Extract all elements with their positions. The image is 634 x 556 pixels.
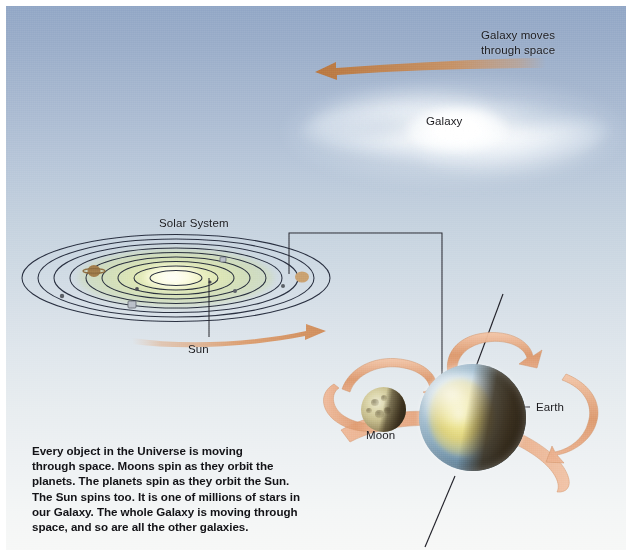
label-sun: Sun: [188, 343, 209, 357]
orbit-7: [54, 244, 298, 313]
earth-rim-light: [419, 364, 526, 471]
caption-line-5: our Galaxy. The whole Galaxy is moving t…: [32, 504, 312, 519]
orbit-5: [86, 253, 266, 304]
orbit-2: [134, 266, 218, 290]
planet-outer-right: [295, 272, 309, 283]
solar-system-orbits: [22, 235, 330, 322]
planet-marker-1: [128, 301, 136, 308]
orbit-1: [150, 271, 202, 286]
planet-marker-3: [233, 289, 237, 293]
moon-terminator-shadow: [361, 387, 406, 432]
solar-system-spin-arrow: [132, 324, 326, 347]
caption-line-1: Every object in the Universe is moving: [32, 443, 312, 458]
label-galaxy: Galaxy: [426, 115, 462, 129]
moon-body: [361, 387, 406, 432]
illustration-page: Galaxy moves through space Galaxy Solar …: [0, 0, 634, 556]
label-galaxy-moves-line2: through space: [481, 44, 555, 56]
label-galaxy-moves-line1: Galaxy moves: [481, 29, 555, 41]
caption-line-4: The Sun spins too. It is one of millions…: [32, 489, 312, 504]
illustration-plate: Galaxy moves through space Galaxy Solar …: [6, 6, 626, 550]
caption-line-6: space, and so are all the other galaxies…: [32, 519, 312, 534]
earth-body: [419, 364, 526, 471]
label-moon: Moon: [366, 429, 395, 443]
orbit-4: [102, 257, 250, 299]
label-solar-system: Solar System: [159, 217, 229, 231]
label-galaxy-moves: Galaxy moves through space: [481, 28, 555, 57]
planet-marker-5: [281, 284, 285, 288]
orbit-8: [38, 239, 314, 317]
caption-line-2: through space. Moons spin as they orbit …: [32, 458, 312, 473]
label-earth: Earth: [536, 401, 564, 415]
galaxy-motion-arrow: [315, 58, 546, 80]
planet-marker-2: [60, 294, 64, 298]
planet-inner-2: [135, 287, 139, 291]
caption-line-3: planets. The planets spin as they orbit …: [32, 473, 312, 488]
caption-block: Every object in the Universe is moving t…: [32, 443, 312, 534]
planet-marker-4: [220, 257, 226, 262]
earth-axis-bottom: [425, 476, 455, 547]
planet-saturn: [88, 265, 101, 277]
